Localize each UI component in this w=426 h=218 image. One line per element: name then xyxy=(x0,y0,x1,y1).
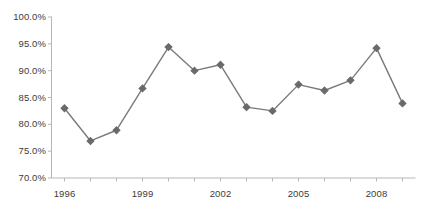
x-axis-label-group: 19961999200220052008 xyxy=(0,0,426,218)
x-axis-tick-label: 1996 xyxy=(54,188,76,199)
x-axis-tick-label: 1999 xyxy=(132,188,154,199)
line-chart: 70.0%75.0%80.0%85.0%90.0%95.0%100.0% 199… xyxy=(0,0,426,218)
x-axis-tick-label: 2008 xyxy=(366,188,388,199)
x-axis-tick-label: 2005 xyxy=(288,188,310,199)
x-axis-tick-label: 2002 xyxy=(210,188,232,199)
